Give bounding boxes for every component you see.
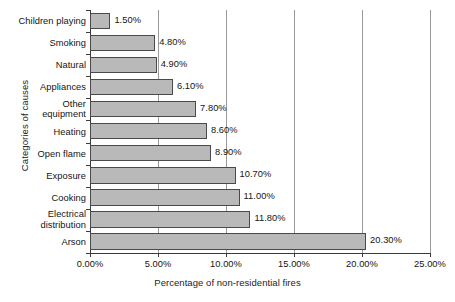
x-tick-mark [90,253,91,257]
y-tick-mark [86,32,90,33]
category-label: Exposure [18,171,86,181]
bar-value-label: 11.80% [254,213,285,224]
category-label: Electrical distribution [18,209,86,230]
bar-value-label: 7.80% [200,103,227,114]
bar-value-label: 4.80% [159,37,186,48]
y-tick-mark [86,76,90,77]
category-label: Children playing [18,16,86,26]
bar[interactable] [90,79,173,95]
bar-value-label: 20.30% [370,235,402,246]
x-tick-mark [362,253,363,257]
bar-row[interactable]: 8.90% [90,143,430,163]
bar[interactable] [90,35,155,51]
bar[interactable] [90,123,207,139]
y-tick-mark [86,143,90,144]
x-tick-mark [226,253,227,257]
bar-value-label: 8.90% [215,147,242,158]
x-tick-mark [158,253,159,257]
bar-row[interactable]: 10.70% [90,166,430,186]
bar-row[interactable]: 20.30% [90,232,430,252]
x-tick-mark [294,253,295,257]
bar-row[interactable]: 8.60% [90,121,430,141]
bar[interactable] [90,13,110,29]
bar-row[interactable]: 11.00% [90,188,430,208]
bar[interactable] [90,233,366,249]
category-label: Heating [18,127,86,137]
category-label: Cooking [18,193,86,203]
bar[interactable] [90,145,211,161]
bar-row[interactable]: 11.80% [90,210,430,230]
category-label: Open flame [18,149,86,159]
bar-value-label: 11.00% [244,191,275,202]
category-label: Smoking [18,38,86,48]
y-tick-mark [86,253,90,254]
x-tick-label: 5.00% [128,259,188,269]
x-axis-title: Percentage of non-residential fires [0,277,455,288]
x-tick-label: 0.00% [60,259,120,269]
y-tick-mark [86,120,90,121]
y-tick-mark [86,165,90,166]
y-tick-mark [86,98,90,99]
y-tick-mark [86,187,90,188]
bar[interactable] [90,101,196,117]
y-tick-mark [86,54,90,55]
category-label: Arson [18,237,86,247]
category-label: Other equipment [18,99,86,120]
bar[interactable] [90,189,240,205]
y-tick-mark [86,10,90,11]
x-tick-label: 20.00% [332,259,392,269]
bar-row[interactable]: 4.80% [90,33,430,53]
bar-value-label: 10.70% [240,169,272,180]
category-axis-labels: Children playingSmokingNaturalAppliances… [18,10,86,253]
x-tick-mark [430,253,431,257]
bar-value-label: 6.10% [177,81,204,92]
category-label: Appliances [18,82,86,92]
category-label: Natural [18,60,86,70]
x-tick-label: 25.00% [400,259,455,269]
y-tick-mark [86,209,90,210]
y-tick-mark [86,231,90,232]
bar-value-label: 8.60% [211,125,238,136]
x-axis-line [90,253,431,254]
plot-area: 0.00%5.00%10.00%15.00%20.00%25.00%1.50%4… [90,10,430,253]
bar-row[interactable]: 4.90% [90,55,430,75]
x-tick-label: 10.00% [196,259,256,269]
bar-row[interactable]: 6.10% [90,77,430,97]
bar-value-label: 4.90% [161,59,188,70]
bar[interactable] [90,211,250,227]
bar[interactable] [90,57,157,73]
bar-chart: Categories of causes Children playingSmo… [0,0,455,302]
x-tick-label: 15.00% [264,259,324,269]
gridline [430,10,431,253]
bar[interactable] [90,167,236,183]
bar-row[interactable]: 7.80% [90,99,430,119]
bar-row[interactable]: 1.50% [90,11,430,31]
bar-value-label: 1.50% [114,15,141,26]
